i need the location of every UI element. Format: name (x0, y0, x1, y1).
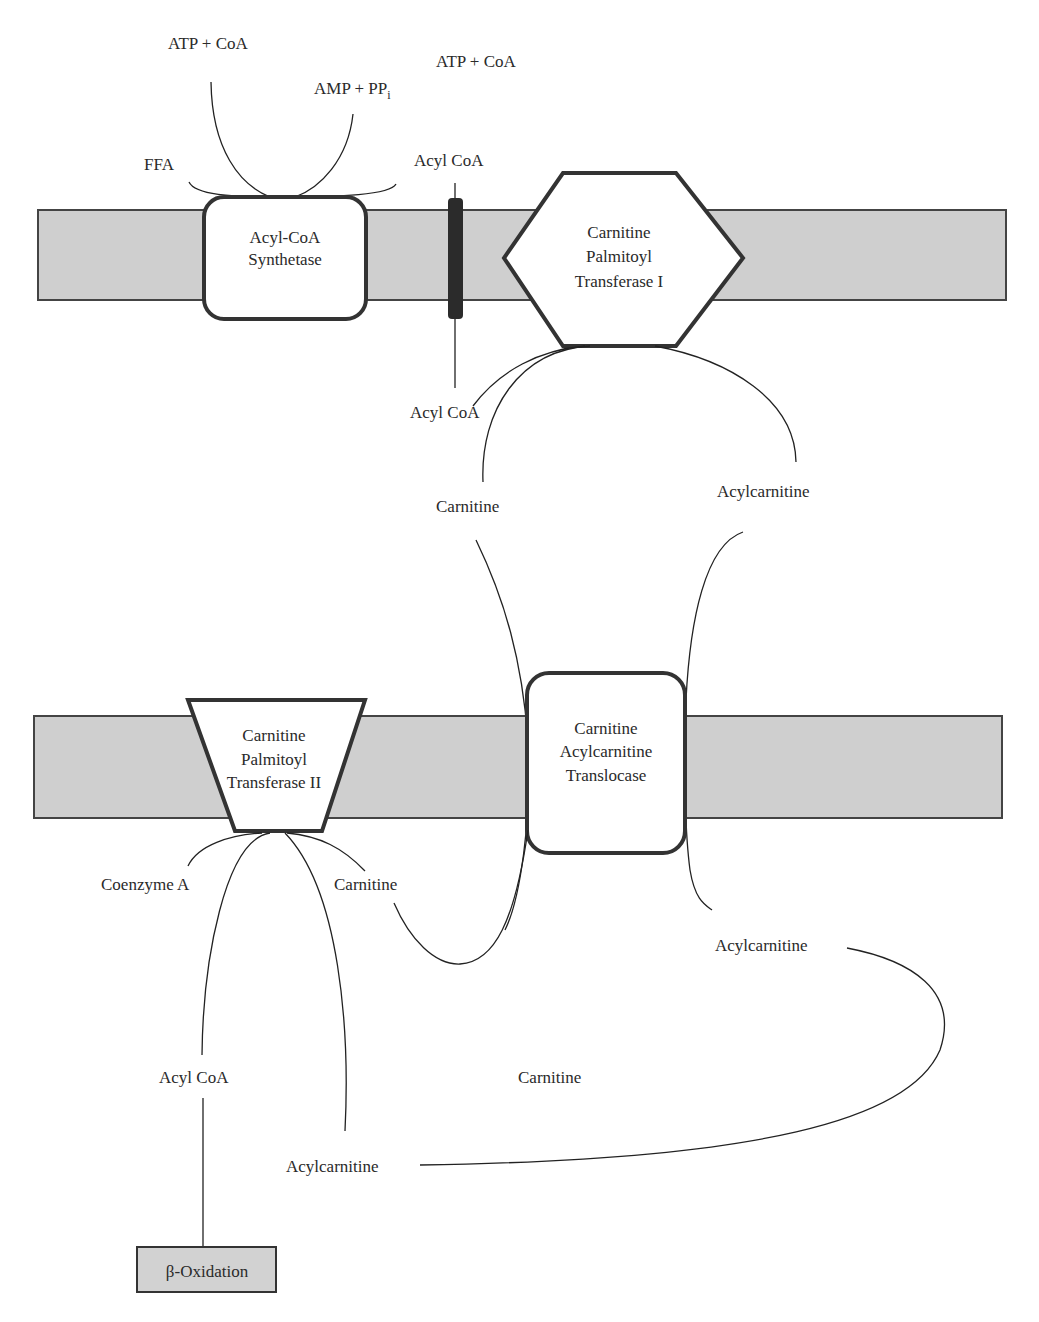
label-acyl-coa-bottom: Acyl CoA (159, 1068, 229, 1087)
cpt1-label-1: Carnitine (587, 223, 650, 242)
label-ffa: FFA (144, 155, 175, 174)
acylcarnitine-return-loop (420, 948, 944, 1165)
translocase-label-3: Translocase (566, 766, 647, 785)
carnitine-loop (394, 830, 528, 964)
beta-oxidation-label: β-Oxidation (166, 1262, 249, 1281)
label-acylcarnitine-right: Acylcarnitine (715, 936, 808, 955)
acylcoa-to-cpt1-arc (473, 346, 585, 406)
label-carnitine-cpt2: Carnitine (334, 875, 397, 894)
carnitine-acylcarnitine-translocase (527, 673, 685, 853)
cpt2-label-2: Palmitoyl (241, 750, 307, 769)
translocase-label-2: Acylcarnitine (560, 742, 653, 761)
acyl-coa-synthetase-label-1: Acyl-CoA (250, 228, 322, 247)
atp-coa-arc (211, 82, 270, 197)
acyl-coa-synthetase-label-2: Synthetase (248, 250, 322, 269)
cpt1-label-2: Palmitoyl (586, 247, 652, 266)
label-acylcarnitine-bottom: Acylcarnitine (286, 1157, 379, 1176)
label-acyl-coa-mid: Acyl CoA (410, 403, 480, 422)
fatty-acid-transport-diagram: Acyl-CoA Synthetase Carnitine Palmitoyl … (0, 0, 1039, 1322)
inner-membrane (34, 716, 1002, 818)
acyl-coa-channel (448, 198, 463, 319)
ffa-to-acylcoa-arc (189, 182, 396, 197)
label-atp-coa-1: ATP + CoA (168, 34, 249, 53)
amp-ppi-arc (295, 114, 353, 197)
label-carnitine-bottom: Carnitine (518, 1068, 581, 1087)
label-amp-ppi-main: AMP + PP (314, 79, 387, 98)
translocase-label-1: Carnitine (574, 719, 637, 738)
label-acylcarnitine-mid: Acylcarnitine (717, 482, 810, 501)
cpt2-coenzymea-arc (188, 833, 262, 866)
label-atp-coa-2: ATP + CoA (436, 52, 517, 71)
cpt2-carnitine-arc (287, 833, 365, 871)
label-acyl-coa-top: Acyl CoA (414, 151, 484, 170)
label-amp-ppi: AMP + PPi (314, 79, 391, 102)
cpt2-label-3: Transferase II (227, 773, 322, 792)
cpt1-label-3: Transferase I (575, 272, 664, 291)
carnitine-to-cpt1-arc (483, 346, 590, 482)
cpt1-to-acylcarnitine-arc (655, 346, 796, 462)
cpt2-acylcoa-arc (202, 833, 270, 1055)
label-amp-ppi-sub: i (387, 88, 391, 102)
label-carnitine-mid: Carnitine (436, 497, 499, 516)
cpt2-label-1: Carnitine (242, 726, 305, 745)
label-coenzyme-a: Coenzyme A (101, 875, 190, 894)
